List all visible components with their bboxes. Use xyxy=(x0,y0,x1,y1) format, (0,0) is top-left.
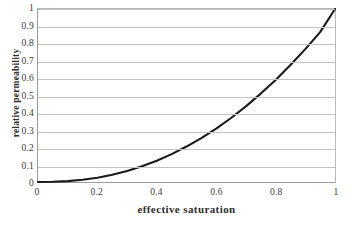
gridline-horizontal xyxy=(38,62,335,63)
permeability-curve xyxy=(38,9,335,182)
y-axis-title: relative permeability xyxy=(11,38,21,148)
relative-permeability-chart: 00.10.20.30.40.50.60.70.80.91 00.20.40.6… xyxy=(0,0,349,230)
gridline-horizontal xyxy=(38,44,335,45)
gridline-horizontal xyxy=(38,27,335,28)
x-axis-title: effective saturation xyxy=(37,203,336,215)
x-tick-label: 1 xyxy=(316,186,349,198)
y-tick-label: 1 xyxy=(0,3,34,13)
y-tick-label: 0.9 xyxy=(0,21,34,31)
gridline-horizontal xyxy=(38,9,335,10)
x-tick-label: 0.8 xyxy=(256,186,296,198)
curve-svg xyxy=(38,9,335,182)
x-tick-label: 0.6 xyxy=(196,186,236,198)
y-tick-label: 0.1 xyxy=(0,161,34,171)
x-tick-label: 0.4 xyxy=(137,186,177,198)
gridline-horizontal xyxy=(38,132,335,133)
gridline-horizontal xyxy=(38,97,335,98)
gridline-horizontal xyxy=(38,79,335,80)
x-axis-tick-labels: 00.20.40.60.81 xyxy=(37,186,336,200)
x-tick-label: 0.2 xyxy=(77,186,117,198)
gridline-horizontal xyxy=(38,114,335,115)
gridline-horizontal xyxy=(38,167,335,168)
x-tick-label: 0 xyxy=(17,186,57,198)
gridline-horizontal xyxy=(38,149,335,150)
plot-area xyxy=(37,8,336,183)
